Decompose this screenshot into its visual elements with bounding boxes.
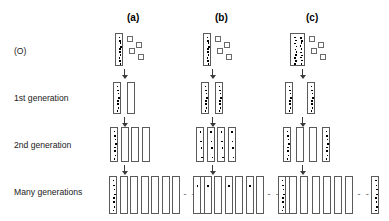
label-dot (120, 46, 122, 48)
free-square-c-1 (309, 36, 315, 42)
label-dot (294, 63, 296, 65)
label-dot (222, 157, 224, 159)
label-dot (376, 194, 378, 196)
arrow-gen1-gen2-b (212, 117, 213, 126)
label-dot (283, 194, 285, 196)
label-dot (327, 155, 329, 157)
label-dot (287, 150, 289, 152)
label-dot (113, 201, 115, 203)
label-dot (119, 57, 121, 59)
arrow-origin-gen1-c (302, 69, 303, 78)
label-dot (205, 103, 207, 105)
label-dot (205, 100, 207, 102)
label-dot (211, 147, 213, 149)
label-dot (232, 141, 234, 143)
arrow-gen2-many-b (212, 165, 213, 174)
label-dot (290, 107, 292, 109)
label-dot (207, 60, 209, 62)
label-dot (287, 135, 289, 137)
label-dot (300, 57, 302, 59)
many-cell-c-5 (323, 176, 331, 214)
label-dot (117, 86, 119, 88)
label-dot (301, 48, 303, 50)
label-dot (300, 52, 302, 54)
label-dot (311, 100, 313, 102)
label-dot (287, 158, 289, 160)
label-dot (200, 141, 202, 143)
label-dot (301, 42, 303, 44)
label-dot (312, 97, 314, 99)
gen2-cell-b-2 (207, 127, 215, 162)
label-dot (296, 51, 298, 53)
label-dot (113, 197, 115, 199)
label-dot (290, 97, 292, 99)
free-square-a-3 (129, 48, 135, 54)
label-dot (119, 37, 121, 39)
many-cell-b-3 (214, 176, 222, 214)
label-dot (115, 139, 117, 141)
label-dot (207, 57, 209, 59)
gen2-cell-b-4 (228, 127, 236, 162)
free-square-c-2 (318, 42, 324, 48)
label-dot (287, 147, 289, 149)
label-dot (207, 37, 209, 39)
label-dot (326, 150, 328, 152)
label-dot (219, 103, 221, 105)
gen2-cell-a-4 (142, 127, 150, 162)
label-dot (376, 206, 378, 208)
free-square-a-2 (136, 42, 142, 48)
many-cell-b-1 (193, 176, 201, 214)
label-dot (311, 90, 313, 92)
many-cell-c-1 (278, 176, 286, 214)
label-dot (114, 158, 116, 160)
label-dot (300, 45, 302, 47)
many-cell-a-4 (141, 176, 149, 214)
free-square-b-3 (217, 48, 223, 54)
label-dot (117, 110, 119, 112)
label-dot (326, 131, 328, 133)
label-dot (312, 107, 314, 109)
arrow-gen1-gen2-a (124, 117, 125, 126)
label-dot (114, 131, 116, 133)
label-dot (375, 210, 377, 212)
label-dot (114, 189, 116, 191)
row-label-origin: (O) (14, 46, 26, 56)
many-cell-c-3 (300, 176, 308, 214)
label-dot (283, 189, 285, 191)
label-dot (113, 180, 115, 182)
many-cell-c-2 (289, 176, 297, 214)
many-cell-a-3 (130, 176, 138, 214)
label-dot (289, 100, 291, 102)
label-dot (219, 86, 221, 88)
column-header-b: (b) (215, 12, 228, 23)
row-label-gen2: 2nd generation (14, 140, 71, 150)
label-dot (311, 110, 313, 112)
label-dot (311, 86, 313, 88)
label-dot (208, 42, 210, 44)
origin-cell-b (203, 33, 211, 66)
label-dot (117, 100, 119, 102)
gen1-cell-b-2 (215, 82, 223, 114)
arrow-gen1-gen2-c (302, 117, 303, 126)
label-dot (289, 90, 291, 92)
label-dot (220, 107, 222, 109)
gen2-cell-c-3 (309, 127, 317, 162)
gen2-cell-a-2 (121, 127, 129, 162)
label-dot (282, 185, 284, 187)
gen1-cell-c-1 (285, 82, 293, 114)
free-square-a-4 (138, 54, 144, 60)
figure-canvas: (a) (b) (c) (O) 1st generation 2nd gener… (0, 0, 389, 221)
label-dot (118, 107, 120, 109)
gen2-cell-b-3 (217, 127, 225, 162)
label-dot (219, 110, 221, 112)
row-label-gen1: 1st generation (14, 93, 68, 103)
free-square-b-1 (215, 36, 221, 42)
label-dot (208, 54, 210, 56)
label-dot (206, 97, 208, 99)
label-dot (113, 185, 115, 187)
many-cell-c-6 (334, 176, 342, 214)
label-dot (117, 90, 119, 92)
label-dot (114, 194, 116, 196)
label-dot (282, 210, 284, 212)
arrow-origin-gen1-b (212, 69, 213, 78)
